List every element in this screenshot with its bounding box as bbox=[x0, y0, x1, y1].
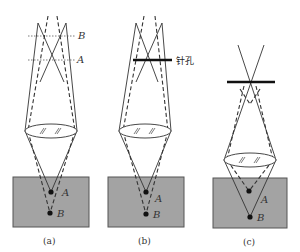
confocal-pinhole-diagram: B A A B (a) bbox=[0, 0, 300, 252]
point-b-label: B bbox=[56, 208, 64, 219]
point-b-label: B bbox=[152, 209, 160, 220]
solid-rays bbox=[25, 23, 77, 192]
dashed-rays bbox=[227, 86, 273, 191]
panel-a-caption: (a) bbox=[43, 236, 55, 246]
panel-a: B A A B (a) bbox=[13, 16, 89, 246]
point-a-label: A bbox=[260, 194, 268, 205]
specimen-block bbox=[13, 177, 89, 227]
panel-c: A B (c) bbox=[213, 45, 287, 247]
specimen-block bbox=[108, 177, 184, 227]
pinhole-label: 针孔 bbox=[176, 55, 194, 66]
point-a-dot bbox=[48, 189, 53, 194]
point-a-dot bbox=[143, 189, 148, 194]
lens bbox=[119, 124, 171, 138]
point-a-dot bbox=[246, 188, 251, 193]
point-b-dot bbox=[47, 210, 52, 215]
point-b-dot bbox=[143, 211, 148, 216]
point-b-label: B bbox=[256, 212, 264, 223]
focal-plane-a-label: A bbox=[76, 54, 84, 65]
panel-b: 针孔 A B (b) bbox=[108, 16, 194, 246]
point-b-dot bbox=[247, 214, 252, 219]
specimen-block bbox=[213, 178, 287, 228]
lens bbox=[25, 124, 77, 138]
panel-b-caption: (b) bbox=[138, 236, 151, 246]
panel-c-caption: (c) bbox=[243, 237, 255, 247]
lens bbox=[224, 153, 276, 167]
point-a-label: A bbox=[61, 187, 69, 198]
point-a-label: A bbox=[154, 193, 162, 204]
focal-plane-b-label: B bbox=[77, 30, 85, 41]
